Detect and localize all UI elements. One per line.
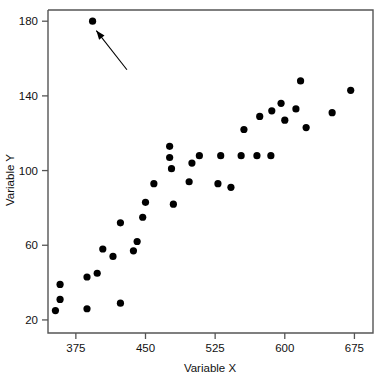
data-point <box>89 18 96 25</box>
data-point <box>94 270 101 277</box>
data-point <box>83 305 90 312</box>
data-point <box>168 165 175 172</box>
data-point <box>99 245 106 252</box>
y-tick-label: 20 <box>25 314 38 326</box>
data-point <box>238 152 245 159</box>
data-point <box>117 300 124 307</box>
data-point <box>217 152 224 159</box>
data-point <box>347 87 354 94</box>
data-point <box>281 117 288 124</box>
data-point <box>329 109 336 116</box>
data-point <box>277 100 284 107</box>
figure-background <box>0 0 388 382</box>
x-tick-label: 675 <box>345 342 364 354</box>
data-point <box>52 307 59 314</box>
data-point <box>303 124 310 131</box>
y-tick-label: 180 <box>19 15 38 27</box>
data-point <box>292 105 299 112</box>
x-tick-label: 525 <box>206 342 225 354</box>
data-point <box>166 154 173 161</box>
scatter-plot-figure: 2060100140180 375450525600675 Variable X… <box>0 0 388 382</box>
data-point <box>256 113 263 120</box>
data-point <box>83 273 90 280</box>
data-point <box>227 184 234 191</box>
x-axis-title: Variable X <box>184 362 237 374</box>
data-point <box>134 238 141 245</box>
y-tick-label: 140 <box>19 90 38 102</box>
data-point <box>297 77 304 84</box>
data-point <box>214 180 221 187</box>
y-axis-title: Variable Y <box>4 154 16 206</box>
x-tick-label: 375 <box>66 342 85 354</box>
y-tick-label: 100 <box>19 165 38 177</box>
data-point <box>130 247 137 254</box>
data-point <box>253 152 260 159</box>
data-point <box>109 253 116 260</box>
data-point <box>268 107 275 114</box>
data-point <box>166 143 173 150</box>
data-point <box>240 126 247 133</box>
x-tick-label: 600 <box>275 342 294 354</box>
data-point <box>117 219 124 226</box>
data-point <box>150 180 157 187</box>
data-point <box>188 160 195 167</box>
data-point <box>139 214 146 221</box>
data-point <box>142 199 149 206</box>
data-point <box>56 296 63 303</box>
y-tick-label: 60 <box>25 239 38 251</box>
data-point <box>56 281 63 288</box>
data-point <box>196 152 203 159</box>
chart-canvas: 2060100140180 375450525600675 Variable X… <box>0 0 388 382</box>
data-point <box>170 201 177 208</box>
data-point <box>267 152 274 159</box>
x-tick-label: 450 <box>136 342 155 354</box>
data-point <box>186 178 193 185</box>
